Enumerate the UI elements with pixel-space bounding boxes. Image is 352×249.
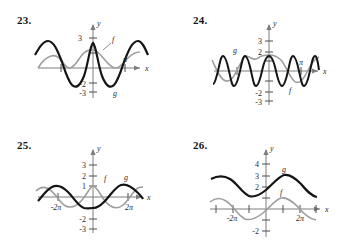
y-tick-label-3-25: 3 xyxy=(82,161,86,170)
curve-label-g-23: g xyxy=(113,89,117,98)
curve-g-26 xyxy=(211,175,317,197)
y-tick-label-3-26: 3 xyxy=(255,172,259,181)
y-tick-label-neg3-25: -3 xyxy=(79,225,86,234)
curve-label-f-24: f xyxy=(289,86,293,95)
graph-26-svg: 4 3 2 -2 -2π 2π x y g f xyxy=(176,125,352,249)
axis-y-25 xyxy=(90,149,95,233)
y-tick-label-1-25: 1 xyxy=(82,182,86,191)
x-tick-label-neg2pi-25: -2π xyxy=(51,203,63,212)
y-tick-label-neg3-24: -3 xyxy=(255,98,262,107)
y-tick-label-neg2-24: -2 xyxy=(255,89,262,98)
y-tick-label-2-26: 2 xyxy=(255,183,259,192)
y-tick-label-neg3-23: -3 xyxy=(79,89,86,98)
axis-label-y-24: y xyxy=(272,19,277,28)
graph-23: 3 -2 -3 π x y f g xyxy=(0,0,176,124)
graph-24: 3 2 -2 -3 π x y g f xyxy=(176,0,352,124)
graph-25: 3 2 1 -2 -3 -2π 2π x y f g xyxy=(0,125,176,249)
curve-label-g-25: g xyxy=(124,173,128,182)
curve-label-g-24: g xyxy=(233,46,237,55)
problem-24: 24. xyxy=(176,0,352,124)
graph-23-svg: 3 -2 -3 π x y f g xyxy=(0,0,176,124)
y-tick-label-2-24: 2 xyxy=(258,48,262,57)
leader-f-23 xyxy=(103,43,111,50)
axis-label-x-23: x xyxy=(144,64,149,73)
y-tick-label-3-23: 3 xyxy=(78,34,82,43)
graph-24-svg: 3 2 -2 -3 π x y g f xyxy=(176,0,352,124)
axis-label-y-25: y xyxy=(96,144,101,153)
axis-y-24 xyxy=(266,24,271,105)
curve-g-23 xyxy=(35,41,148,87)
y-tick-label-3-24: 3 xyxy=(258,37,262,46)
curve-label-f-26: f xyxy=(280,188,284,197)
problem-23: 23. xyxy=(0,0,176,124)
axis-y-23 xyxy=(90,24,95,98)
y-tick-label-neg2-25: -2 xyxy=(79,215,86,224)
graph-26: 4 3 2 -2 -2π 2π x y g f xyxy=(176,125,352,249)
curve-label-g-26: g xyxy=(282,165,286,174)
axis-y-26 xyxy=(263,149,268,237)
axis-label-x-26: x xyxy=(324,205,329,214)
curve-label-f-25: f xyxy=(104,174,108,183)
graph-25-svg: 3 2 1 -2 -3 -2π 2π x y f g xyxy=(0,125,176,249)
axis-label-x-24: x xyxy=(322,67,327,76)
curve-label-f-23: f xyxy=(112,35,116,44)
axis-label-x-25: x xyxy=(146,193,151,202)
problem-26: 26. xyxy=(176,125,352,249)
y-tick-label-2-25: 2 xyxy=(82,172,86,181)
x-tick-label-neg2pi-26: -2π xyxy=(227,214,239,223)
problem-25: 25. xyxy=(0,125,176,249)
axis-x-25 xyxy=(38,194,142,199)
y-tick-label-neg2-26: -2 xyxy=(252,227,259,236)
worksheet-page: 23. xyxy=(0,0,352,249)
axis-label-y-26: y xyxy=(269,144,274,153)
x-tick-label-2pi-26: 2π xyxy=(296,214,305,223)
y-tick-label-neg2-23: -2 xyxy=(79,80,86,89)
x-tick-label-pi-24: π xyxy=(299,58,304,67)
x-tick-label-2pi-25: 2π xyxy=(125,203,134,212)
y-tick-label-4-26: 4 xyxy=(255,160,259,169)
axis-label-y-23: y xyxy=(96,19,101,28)
